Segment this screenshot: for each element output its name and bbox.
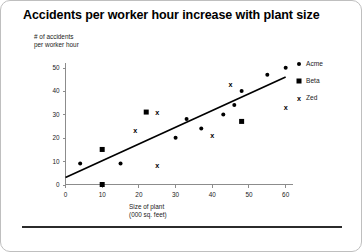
x-tick-label: 0 [64,191,68,198]
data-point-zed: x [229,80,233,89]
axes-group [66,63,294,185]
data-point-acme [265,73,269,77]
x-tick-label: 30 [172,191,180,198]
x-tick-label: 40 [209,191,217,198]
bottom-divider [22,226,342,228]
data-point-acme [284,66,288,70]
chart-legend: AcmeBetaxZed [297,60,324,102]
scatter-plot: 01020304050 0102030405060 xxxxxx AcmeBet… [1,1,362,252]
data-point-zed: x [210,131,214,140]
trendline-segment [66,77,286,177]
data-point-beta [144,110,149,115]
y-tick-label: 50 [52,64,60,71]
data-point-acme [185,117,189,121]
data-point-zed: x [155,161,159,170]
legend-label-beta: Beta [306,77,320,84]
slide-canvas: Accidents per worker hour increase with … [0,0,362,252]
data-point-beta [100,182,105,187]
legend-label-acme: Acme [306,60,323,67]
y-tick-label: 0 [56,181,60,188]
data-point-acme [221,112,225,116]
legend-marker-zed: x [297,94,301,103]
data-point-beta [100,147,105,152]
data-markers-group: xxxxxx [78,66,287,187]
y-tick-label: 10 [52,158,60,165]
x-tick-label: 10 [99,191,107,198]
data-point-acme [78,161,82,165]
y-tick-label: 30 [52,111,60,118]
x-tick-label: 20 [135,191,143,198]
trendline [66,77,286,177]
data-point-acme [240,89,244,93]
data-point-acme [199,126,203,130]
data-point-beta [239,119,244,124]
x-tick-label: 50 [245,191,253,198]
x-tick-label: 60 [282,191,290,198]
legend-label-zed: Zed [306,94,318,101]
data-point-acme [232,103,236,107]
data-point-zed: x [284,103,288,112]
data-point-acme [119,161,123,165]
data-point-acme [174,136,178,140]
legend-marker-acme [297,62,301,66]
y-tick-label: 40 [52,87,60,94]
data-point-zed: x [155,108,159,117]
y-tick-label: 20 [52,134,60,141]
data-point-zed: x [133,126,137,135]
legend-marker-beta [297,79,302,84]
y-tick-group: 01020304050 [52,64,65,188]
x-tick-group: 0102030405060 [64,185,290,198]
